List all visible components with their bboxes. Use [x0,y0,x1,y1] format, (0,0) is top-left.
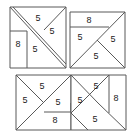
square-bottom-left-label-1: 5 [22,95,27,105]
tangram-figure-svg: 5 5 8 5 8 5 5 5 [0,0,128,139]
square-bottom-left-label-2: 5 [55,97,60,107]
square-top-right-label-1: 5 [77,32,82,42]
square-top-right-label-3: 5 [93,51,98,61]
square-bottom-right-label-2: 8 [113,93,118,103]
square-top-right-label-0: 8 [86,15,91,25]
square-bottom-right: 5 5 8 5 [71,75,126,130]
square-top-left-label-1: 5 [49,26,54,36]
square-bottom-right-label-0: 5 [93,81,98,91]
square-top-right: 8 5 5 5 [70,12,125,68]
square-top-left-label-3: 5 [32,44,37,54]
square-top-left: 5 5 8 5 [10,7,66,68]
square-bottom-right-label-1: 5 [77,95,82,105]
tangram-figure-container: 5 5 8 5 8 5 5 5 [0,0,128,139]
square-top-right-label-2: 5 [110,34,115,44]
square-bottom-right-label-3: 5 [92,114,97,124]
square-top-left-label-0: 5 [35,13,40,23]
square-top-left-label-2: 8 [15,39,20,49]
square-bottom-left-label-0: 5 [39,81,44,91]
square-bottom-left-label-3: 8 [52,115,57,125]
square-bottom-left: 5 5 5 8 [16,75,71,130]
